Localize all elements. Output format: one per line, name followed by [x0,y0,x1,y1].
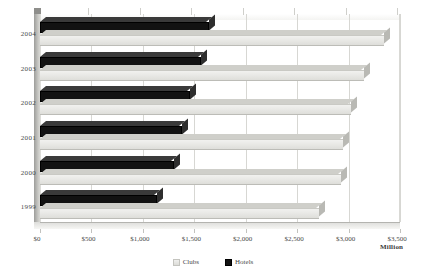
x-axis-tick [143,229,144,233]
bar-clubs [40,139,343,150]
x-axis-tick-label: $0 [34,235,41,243]
bar-top-face [40,169,344,174]
bar-body [40,70,364,81]
x-axis-tick-label: $3,500 [387,235,406,243]
gridline-top-tick [397,8,398,15]
x-axis-tick [40,229,41,233]
x-axis-tick-label: $500 [81,235,95,243]
x-axis-tick-label: $1,000 [130,235,149,243]
gridline [400,14,401,222]
bar-clubs [40,70,364,81]
bar-end-cap [201,49,207,65]
bar-clubs [40,104,351,115]
bar-top-face [40,190,160,195]
bar-top-face [40,17,212,22]
plot-right-edge [399,14,400,222]
bar-top-face [40,203,322,208]
x-axis-unit-label: Million [380,243,403,251]
clubs-swatch-icon [173,259,180,266]
gridline-top-tick [346,8,347,15]
legend-label-clubs: Clubs [183,258,199,266]
bar-top-face [40,156,177,161]
legend-label-hotels: Hotels [235,258,253,266]
plot-area [40,14,400,222]
x-axis-line [40,222,400,223]
bar-body [40,35,384,46]
bar-top-face [40,86,193,91]
bar-top-face [40,121,185,126]
bar-chart: 200420032002200120001999 $0$500$1,000$1,… [0,0,426,277]
x-axis-tick-label: $3,000 [336,235,355,243]
gridline-top-tick [88,8,89,15]
x-axis-tick [297,229,298,233]
bar-clubs [40,208,319,219]
y-axis-category-label: 2000 [2,169,36,177]
x-axis-tick-label: $1,500 [182,235,201,243]
chart-legend: Clubs Hotels [0,258,426,266]
bar-body [40,104,351,115]
x-axis-tick [246,229,247,233]
legend-item-hotels[interactable]: Hotels [225,258,253,266]
bar-top-face [40,52,204,57]
hotels-swatch-icon [225,259,232,266]
x-axis-tick-label: $2,000 [233,235,252,243]
y-axis-category-label: 2001 [2,134,36,142]
bar-body [40,174,341,185]
bar-end-cap [157,188,163,204]
bar-top-face [40,30,386,35]
gridline-top-tick [140,8,141,15]
bar-clubs [40,35,384,46]
bar-body [40,208,319,219]
y-axis-category-label: 2003 [2,65,36,73]
x-axis-tick [400,229,401,233]
x-axis-tick [91,229,92,233]
bar-top-face [40,65,367,70]
x-axis-tick [194,229,195,233]
chart-floor [34,222,400,229]
legend-item-clubs[interactable]: Clubs [173,258,199,266]
gridline-top-tick [243,8,244,15]
bar-end-cap [319,201,325,217]
x-axis-tick-label: $2,500 [285,235,304,243]
gridline-top-tick [294,8,295,15]
y-axis-category-label: 1999 [2,203,36,211]
y-axis-category-label: 2002 [2,99,36,107]
bar-clubs [40,174,341,185]
bar-body [40,139,343,150]
bar-top-face [40,134,346,139]
x-axis-tick [349,229,350,233]
bar-top-face [40,99,354,104]
gridline-top-tick [191,8,192,15]
y-axis-category-label: 2004 [2,30,36,38]
